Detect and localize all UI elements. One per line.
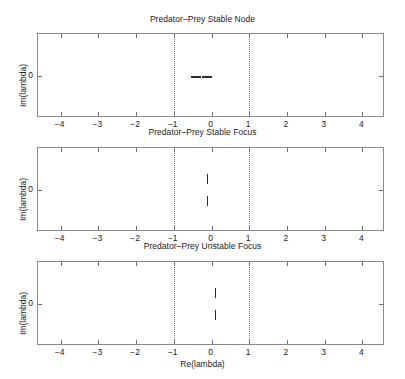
x-tick-label: 3 [312, 119, 336, 129]
x-tick-label: −4 [48, 233, 72, 243]
x-tick-bottom [362, 226, 363, 230]
x-tick-label: 1 [236, 119, 260, 129]
x-tick-label: −1 [161, 119, 185, 129]
x-tick-top [325, 262, 326, 266]
x-tick-bottom [98, 112, 99, 116]
y-tick-0-right [379, 190, 383, 191]
x-tick-top [287, 262, 288, 266]
x-tick-top [212, 262, 213, 266]
x-tick-label: 1 [236, 233, 260, 243]
x-tick-label: 4 [349, 347, 373, 357]
x-tick-bottom [61, 226, 62, 230]
x-tick-bottom [174, 226, 175, 230]
x-tick-top [174, 34, 175, 38]
dotted-line-re-neg1 [174, 148, 175, 230]
x-tick-bottom [249, 226, 250, 230]
x-tick-top [136, 34, 137, 38]
eigenvalue-marker [207, 174, 208, 184]
x-tick-label: 0 [199, 233, 223, 243]
x-tick-top [249, 34, 250, 38]
x-tick-top [98, 148, 99, 152]
y-tick-0 [38, 76, 42, 77]
panel-title-stable-node: Predator–Prey Stable Node [0, 14, 405, 24]
x-tick-top [61, 262, 62, 266]
x-tick-top [325, 148, 326, 152]
x-tick-label: −2 [123, 233, 147, 243]
x-tick-bottom [325, 112, 326, 116]
x-tick-label: 2 [274, 233, 298, 243]
x-tick-label: 4 [349, 119, 373, 129]
y-tick-0 [38, 304, 42, 305]
x-tick-bottom [212, 340, 213, 344]
eigenvalue-marker [215, 310, 216, 320]
x-tick-top [287, 148, 288, 152]
plot-area-stable-focus [37, 147, 384, 231]
x-tick-top [136, 148, 137, 152]
x-tick-top [136, 262, 137, 266]
x-tick-top [212, 148, 213, 152]
x-tick-label: 4 [349, 233, 373, 243]
x-tick-label: −1 [161, 347, 185, 357]
x-tick-bottom [212, 112, 213, 116]
x-tick-bottom [98, 340, 99, 344]
y-tick-0 [38, 190, 42, 191]
x-tick-bottom [362, 340, 363, 344]
x-tick-label: 0 [199, 119, 223, 129]
dotted-line-re-pos1 [249, 34, 250, 116]
x-tick-bottom [136, 340, 137, 344]
x-tick-top [362, 262, 363, 266]
dotted-line-re-pos1 [249, 262, 250, 344]
x-tick-bottom [287, 112, 288, 116]
y-tick-label-0-panel1: 0 [15, 70, 33, 80]
eigenvalue-marker [202, 76, 212, 78]
x-tick-label: −3 [85, 233, 109, 243]
x-tick-bottom [174, 112, 175, 116]
plot-area-stable-node [37, 33, 384, 117]
eigenvalue-marker [207, 196, 208, 206]
x-tick-label: 0 [199, 347, 223, 357]
y-tick-label-0-panel2: 0 [15, 184, 33, 194]
x-axis-label: Re(lambda) [0, 359, 405, 369]
y-tick-0-right [379, 304, 383, 305]
eigenvalue-marker [191, 76, 201, 78]
x-tick-label: −3 [85, 347, 109, 357]
x-tick-bottom [325, 340, 326, 344]
x-tick-bottom [362, 112, 363, 116]
x-tick-top [287, 34, 288, 38]
x-tick-label: −1 [161, 233, 185, 243]
y-tick-0-right [379, 76, 383, 77]
x-tick-top [61, 148, 62, 152]
x-tick-label: −2 [123, 119, 147, 129]
x-tick-top [249, 148, 250, 152]
dotted-line-re-pos1 [249, 148, 250, 230]
x-tick-top [61, 34, 62, 38]
x-tick-top [98, 262, 99, 266]
x-tick-top [362, 148, 363, 152]
x-tick-bottom [136, 112, 137, 116]
x-tick-bottom [249, 112, 250, 116]
x-tick-top [249, 262, 250, 266]
x-tick-bottom [287, 226, 288, 230]
x-tick-label: 2 [274, 119, 298, 129]
x-tick-top [174, 262, 175, 266]
eigenvalue-marker [215, 288, 216, 298]
x-tick-top [325, 34, 326, 38]
x-tick-bottom [61, 112, 62, 116]
x-tick-label: 3 [312, 233, 336, 243]
x-tick-top [98, 34, 99, 38]
x-tick-bottom [136, 226, 137, 230]
dotted-line-re-neg1 [174, 262, 175, 344]
x-tick-label: 1 [236, 347, 260, 357]
x-tick-label: −4 [48, 347, 72, 357]
figure-canvas: Predator–Prey Stable Node Im(lambda) 0 P… [0, 0, 405, 379]
x-tick-bottom [174, 340, 175, 344]
x-tick-bottom [98, 226, 99, 230]
x-tick-label: −3 [85, 119, 109, 129]
x-tick-bottom [212, 226, 213, 230]
x-tick-bottom [325, 226, 326, 230]
x-tick-bottom [61, 340, 62, 344]
y-tick-label-0-panel3: 0 [15, 298, 33, 308]
x-tick-label: −2 [123, 347, 147, 357]
x-tick-bottom [249, 340, 250, 344]
x-tick-top [174, 148, 175, 152]
